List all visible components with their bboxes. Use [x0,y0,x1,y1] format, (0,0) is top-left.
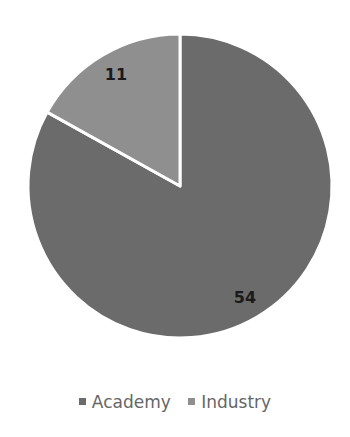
data-label-academy: 54 [234,288,256,307]
legend-item-academy: Academy [79,392,171,412]
legend-item-industry: Industry [188,392,271,412]
legend-swatch-academy [79,398,86,405]
chart-legend: Academy Industry [0,392,350,412]
data-label-industry: 11 [105,65,127,84]
pie-slices [28,34,332,338]
legend-label-industry: Industry [201,392,271,412]
legend-swatch-industry [188,398,195,405]
pie-chart: 5411 [0,0,350,380]
legend-label-academy: Academy [92,392,171,412]
